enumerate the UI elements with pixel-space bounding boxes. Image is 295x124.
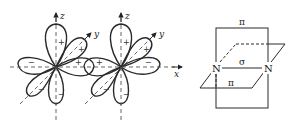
atom-n-left: N bbox=[212, 63, 221, 74]
sign-o2-upper-right: + bbox=[143, 45, 150, 54]
sign-o1-bottom: − bbox=[58, 90, 65, 99]
sign-o1-top: + bbox=[58, 38, 65, 47]
sign-o2-bottom: − bbox=[123, 90, 130, 99]
pi-label-vertical: π bbox=[239, 17, 245, 27]
sign-o1-upper-right: + bbox=[78, 45, 85, 54]
sign-o2-lower-left: − bbox=[103, 85, 110, 94]
z-axis-label-2: z bbox=[124, 11, 130, 21]
sign-o1-left: − bbox=[28, 58, 35, 67]
y-axis-label-1: y bbox=[93, 29, 100, 39]
x-axis-label: x bbox=[174, 69, 179, 79]
sign-o2-right: − bbox=[145, 58, 152, 67]
figure-canvas: z z y y x + + + − − − + + + − − − N N π … bbox=[0, 0, 295, 124]
pi-plane-horizontal-left bbox=[200, 72, 212, 88]
pi-label-horizontal: π bbox=[228, 78, 234, 88]
sign-o2-left: + bbox=[96, 58, 103, 67]
sign-o2-top: + bbox=[123, 38, 130, 47]
y-axis-label-2: y bbox=[158, 29, 165, 39]
sign-o1-lower-left: − bbox=[38, 85, 45, 94]
sign-o1-right: + bbox=[75, 58, 82, 67]
sigma-label: σ bbox=[239, 57, 245, 67]
atom-n-right: N bbox=[264, 63, 273, 74]
orbital-1-lobe-left bbox=[18, 58, 56, 75]
z-axis-label-1: z bbox=[59, 11, 65, 21]
